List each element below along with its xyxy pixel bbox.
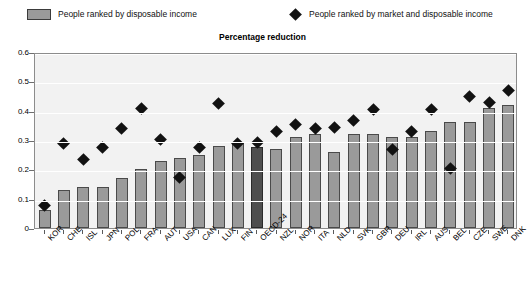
diamond-marker[interactable]	[116, 122, 129, 135]
bar[interactable]	[309, 134, 321, 228]
bar[interactable]	[367, 134, 379, 228]
y-axis: 00.10.20.30.40.50.6	[0, 53, 34, 229]
bar[interactable]	[328, 152, 340, 228]
bar[interactable]	[193, 155, 205, 228]
legend-label-disposable-income: People ranked by disposable income	[58, 10, 197, 19]
bar-group	[402, 54, 421, 228]
x-axis-tick-mark	[449, 230, 450, 234]
x-axis-tick-mark	[63, 230, 64, 234]
bar-group	[421, 54, 440, 228]
gridline	[35, 201, 516, 202]
bar-swatch-icon	[27, 9, 51, 20]
bar-group	[383, 54, 402, 228]
x-axis-tick-mark	[411, 230, 412, 234]
bar[interactable]	[502, 105, 514, 228]
bar-group	[35, 54, 54, 228]
bar-group	[209, 54, 228, 228]
x-axis-tick-mark	[198, 230, 199, 234]
chart-legend: People ranked by disposable income Peopl…	[0, 6, 525, 22]
bar-group	[325, 54, 344, 228]
x-axis-tick-mark	[160, 230, 161, 234]
bar-group	[499, 54, 518, 228]
bar[interactable]	[406, 137, 418, 228]
legend-label-market-and-disposable-income: People ranked by market and disposable i…	[309, 10, 493, 19]
bar-group	[170, 54, 189, 228]
bar[interactable]	[444, 122, 456, 228]
bar-group	[248, 54, 267, 228]
diamond-marker[interactable]	[328, 121, 341, 134]
diamond-marker[interactable]	[425, 103, 438, 116]
x-axis-tick-mark	[82, 230, 83, 234]
plot-area	[34, 53, 517, 229]
x-axis-tick-mark	[430, 230, 431, 234]
bar-group	[344, 54, 363, 228]
x-axis-tick-mark	[295, 230, 296, 234]
diamond-marker[interactable]	[270, 125, 283, 138]
diamond-marker[interactable]	[463, 90, 476, 103]
bar-group	[74, 54, 93, 228]
diamond-marker[interactable]	[347, 114, 360, 127]
y-axis-tick-label: 0.3	[18, 137, 29, 145]
x-axis-tick-mark	[353, 230, 354, 234]
x-axis-tick-mark	[102, 230, 103, 234]
x-axis-tick-mark	[44, 230, 45, 234]
legend-item-market-and-disposable-income: People ranked by market and disposable i…	[290, 6, 493, 22]
diamond-marker[interactable]	[289, 118, 302, 131]
bar[interactable]	[232, 143, 244, 228]
bar-group	[190, 54, 209, 228]
bar-group	[441, 54, 460, 228]
diamond-marker[interactable]	[77, 153, 90, 166]
chart-title: Percentage reduction	[0, 32, 525, 42]
gridline	[35, 54, 516, 55]
x-axis-tick-mark	[256, 230, 257, 234]
diamond-marker[interactable]	[212, 97, 225, 110]
bar[interactable]	[425, 131, 437, 228]
bar[interactable]	[77, 187, 89, 228]
bar[interactable]	[116, 178, 128, 228]
bar-group	[305, 54, 324, 228]
bar-group	[54, 54, 73, 228]
diamond-icon	[289, 8, 302, 21]
bar[interactable]	[213, 146, 225, 228]
x-axis-tick-mark	[218, 230, 219, 234]
bar[interactable]	[97, 187, 109, 228]
x-axis-tick-label: FIN	[240, 228, 255, 243]
x-axis-tick-mark	[121, 230, 122, 234]
bar-group	[267, 54, 286, 228]
x-axis-tick-mark	[391, 230, 392, 234]
y-axis-tick-label: 0.2	[18, 166, 29, 174]
x-axis-tick-mark	[237, 230, 238, 234]
gridline	[35, 113, 516, 114]
diamond-marker[interactable]	[193, 141, 206, 154]
legend-item-disposable-income: People ranked by disposable income	[27, 6, 197, 22]
bar-group	[112, 54, 131, 228]
x-axis-tick-mark	[507, 230, 508, 234]
x-axis-tick-mark	[488, 230, 489, 234]
diamond-marker[interactable]	[96, 141, 109, 154]
bar[interactable]	[290, 137, 302, 228]
x-axis-tick-mark	[333, 230, 334, 234]
bar-group	[93, 54, 112, 228]
y-axis-tick-label: 0.1	[18, 196, 29, 204]
diamond-marker[interactable]	[502, 84, 515, 97]
bar[interactable]	[39, 210, 51, 228]
diamond-marker[interactable]	[58, 137, 71, 150]
bar-group	[286, 54, 305, 228]
x-axis-tick-label: ISL	[85, 229, 99, 243]
gridline	[35, 83, 516, 84]
x-axis-tick-mark	[179, 230, 180, 234]
bar-group	[479, 54, 498, 228]
diamond-marker[interactable]	[367, 103, 380, 116]
bar[interactable]	[483, 108, 495, 228]
bar[interactable]	[174, 158, 186, 228]
bar[interactable]	[464, 122, 476, 228]
x-axis-tick-mark	[314, 230, 315, 234]
bar[interactable]	[348, 134, 360, 228]
diamond-marker[interactable]	[154, 133, 167, 146]
bar[interactable]	[58, 190, 70, 228]
bar-group	[132, 54, 151, 228]
x-axis-tick-label: ITA	[317, 229, 331, 243]
bar[interactable]	[251, 147, 263, 228]
bar[interactable]	[135, 169, 147, 228]
